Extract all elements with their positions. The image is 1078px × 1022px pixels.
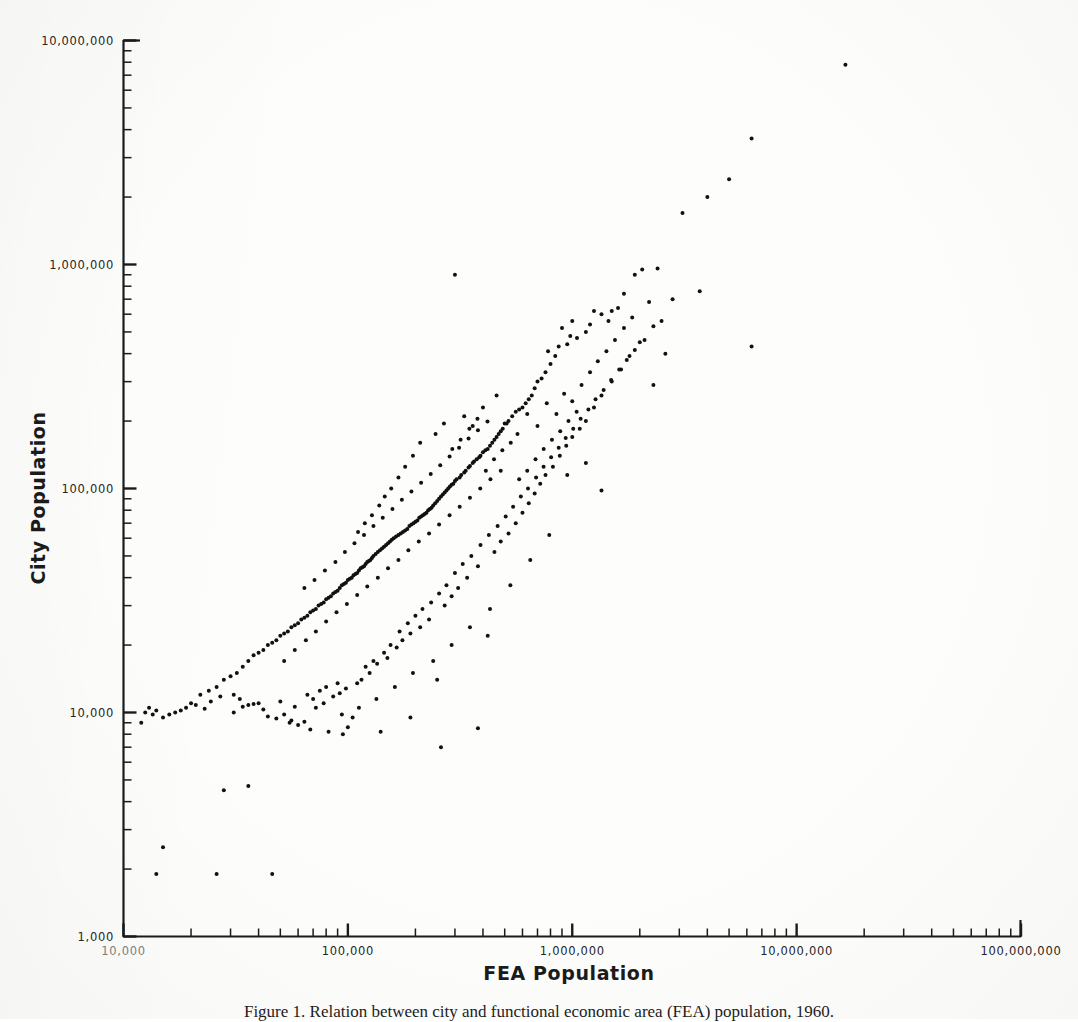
data-point <box>364 665 368 669</box>
data-point <box>542 465 546 469</box>
data-point <box>434 432 438 436</box>
data-point <box>622 292 626 296</box>
data-point <box>495 394 499 398</box>
data-point <box>638 340 642 344</box>
data-point <box>549 455 553 459</box>
data-point <box>374 697 378 701</box>
data-point <box>363 521 367 525</box>
data-point <box>241 665 245 669</box>
data-point <box>151 712 155 716</box>
data-point <box>398 629 402 633</box>
data-point <box>475 417 479 421</box>
data-point <box>584 330 588 334</box>
data-point <box>547 533 551 537</box>
data-point <box>527 397 531 401</box>
data-point <box>215 872 219 876</box>
data-point <box>302 586 306 590</box>
data-point <box>278 634 282 638</box>
data-point <box>453 571 457 575</box>
data-point <box>429 472 433 476</box>
data-point <box>359 678 363 682</box>
data-point <box>261 708 265 712</box>
data-point <box>400 638 404 642</box>
data-point <box>375 662 379 666</box>
y-tick-label: 10,000 <box>20 706 114 720</box>
data-point <box>232 693 236 697</box>
axes <box>123 40 1021 937</box>
data-point <box>377 503 381 507</box>
data-point <box>179 709 183 713</box>
data-point <box>517 477 521 481</box>
data-point <box>507 531 511 535</box>
data-point <box>336 681 340 685</box>
data-point <box>229 674 233 678</box>
data-point <box>564 444 568 448</box>
data-point <box>357 706 361 710</box>
data-point <box>450 643 454 647</box>
data-point <box>596 359 600 363</box>
data-point <box>419 481 423 485</box>
data-point <box>246 659 250 663</box>
data-point <box>389 643 393 647</box>
data-point <box>499 539 503 543</box>
data-point <box>296 723 300 727</box>
data-point <box>335 610 339 614</box>
data-point <box>488 607 492 611</box>
data-point <box>557 345 561 349</box>
data-point <box>476 726 480 730</box>
data-point <box>519 495 523 499</box>
data-point <box>289 625 293 629</box>
axis-ticks <box>124 41 1022 937</box>
data-point <box>554 412 558 416</box>
x-tick-label: 10,000 <box>101 944 145 958</box>
data-point <box>370 513 374 517</box>
data-point <box>588 370 592 374</box>
data-point <box>393 685 397 689</box>
data-point <box>222 788 226 792</box>
data-point <box>456 586 460 590</box>
data-point <box>592 309 596 313</box>
data-point <box>305 693 309 697</box>
data-point <box>651 383 655 387</box>
data-point <box>442 422 446 426</box>
y-tick-label: 1,000,000 <box>20 258 114 272</box>
data-point <box>379 730 383 734</box>
data-point <box>481 405 485 409</box>
data-point <box>311 697 315 701</box>
data-point <box>565 473 569 477</box>
data-point <box>468 625 472 629</box>
x-tick-label: 100,000,000 <box>981 944 1062 958</box>
data-point <box>476 564 480 568</box>
data-point <box>362 533 366 537</box>
data-point <box>750 137 754 141</box>
data-point <box>427 618 431 622</box>
data-point <box>570 435 574 439</box>
data-point <box>606 319 610 323</box>
data-point <box>511 505 515 509</box>
data-point <box>481 450 485 454</box>
data-point <box>390 507 394 511</box>
data-point <box>467 437 471 441</box>
data-point <box>663 352 667 356</box>
data-point <box>586 408 590 412</box>
data-point <box>564 436 568 440</box>
data-point <box>429 600 433 604</box>
data-point <box>471 461 475 465</box>
data-point <box>599 488 603 492</box>
data-point <box>617 367 621 371</box>
data-point <box>246 703 250 707</box>
data-point <box>304 638 308 642</box>
data-point <box>344 686 348 690</box>
data-point <box>550 438 554 442</box>
y-tick-label: 1,000 <box>20 930 114 944</box>
data-point <box>314 629 318 633</box>
data-point <box>599 394 603 398</box>
data-point <box>468 496 472 500</box>
data-point <box>545 401 549 405</box>
data-point <box>651 324 655 328</box>
data-point <box>345 602 349 606</box>
data-point <box>499 469 503 473</box>
data-point <box>492 457 496 461</box>
data-point <box>534 457 538 461</box>
